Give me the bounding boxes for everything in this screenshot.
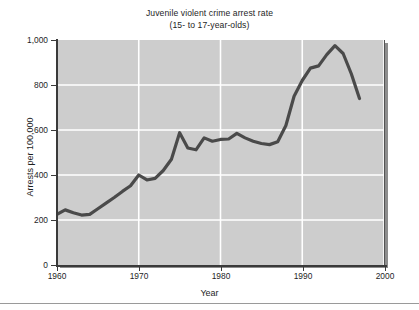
- figure-bottom-rule: [0, 303, 419, 304]
- x-axis-title: Year: [0, 288, 419, 298]
- y-tick-label-800: 800: [34, 81, 48, 90]
- y-axis-spine: [56, 39, 58, 267]
- chart-figure: Juvenile violent crime arrest rate (15- …: [0, 0, 419, 310]
- plot-area: [57, 40, 385, 265]
- gridlines-vertical: [139, 40, 384, 265]
- y-tick-mark-0: [51, 265, 56, 266]
- x-tick-label-1970: 1970: [130, 272, 149, 281]
- y-tick-label-400: 400: [34, 171, 48, 180]
- y-tick-label-1000: 1,000: [27, 36, 48, 45]
- x-tick-label-1960: 1960: [48, 272, 67, 281]
- y-tick-mark-200: [51, 220, 56, 221]
- x-tick-label-1980: 1980: [212, 272, 231, 281]
- y-tick-mark-800: [51, 85, 56, 86]
- chart-subtitle: (15- to 17-year-olds): [0, 20, 419, 32]
- y-tick-mark-600: [51, 130, 56, 131]
- x-tick-label-1990: 1990: [294, 272, 313, 281]
- chart-title-main: Juvenile violent crime arrest rate: [146, 8, 273, 18]
- y-tick-label-600: 600: [34, 126, 48, 135]
- chart-title: Juvenile violent crime arrest rate (15- …: [0, 8, 419, 31]
- y-tick-mark-1000: [51, 40, 56, 41]
- y-tick-label-0: 0: [43, 261, 48, 270]
- y-axis-title: Arrests per 100,000: [25, 67, 35, 247]
- x-tick-label-2000: 2000: [376, 272, 395, 281]
- y-tick-label-200: 200: [34, 216, 48, 225]
- plot-canvas: [57, 40, 384, 265]
- y-tick-mark-400: [51, 175, 56, 176]
